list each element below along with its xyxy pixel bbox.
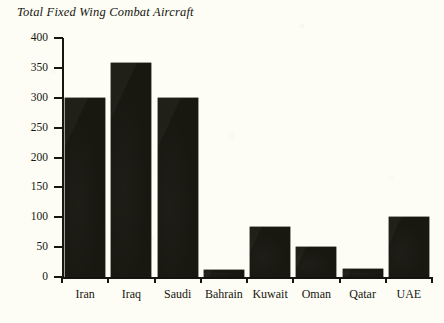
- y-tick-label-150: 150: [4, 181, 48, 193]
- y-tick-150: [54, 186, 63, 188]
- y-tick-200: [54, 157, 63, 159]
- y-tick-50: [54, 246, 63, 248]
- bar-uae: [389, 217, 429, 277]
- x-axis-label-iran: Iran: [62, 288, 108, 301]
- y-tick-label-50: 50: [4, 241, 48, 253]
- bar-saudi: [158, 98, 198, 277]
- y-tick-100: [54, 216, 63, 218]
- bar-kuwait: [250, 227, 290, 277]
- x-axis-label-kuwait: Kuwait: [247, 288, 293, 301]
- x-tick-5: [292, 277, 294, 283]
- x-tick-4: [246, 277, 248, 283]
- y-tick-label-0: 0: [4, 271, 48, 283]
- x-tick-2: [154, 277, 156, 283]
- x-axis-label-iraq: Iraq: [108, 288, 154, 301]
- bar-bahrain: [204, 270, 244, 277]
- x-axis-label-bahrain: Bahrain: [201, 288, 247, 301]
- y-tick-label-350: 350: [4, 62, 48, 74]
- y-tick-400: [54, 37, 63, 39]
- plot-area: 050100150200250300350400 IranIraqSaudiBa…: [0, 0, 444, 323]
- x-tick-7: [385, 277, 387, 283]
- x-tick-8: [431, 277, 433, 283]
- y-tick-label-300: 300: [4, 92, 48, 104]
- x-axis-label-qatar: Qatar: [340, 288, 386, 301]
- y-tick-300: [54, 97, 63, 99]
- x-tick-0: [61, 277, 63, 283]
- bar-qatar: [343, 269, 383, 277]
- y-tick-label-250: 250: [4, 122, 48, 134]
- y-tick-label-200: 200: [4, 152, 48, 164]
- x-axis-label-saudi: Saudi: [155, 288, 201, 301]
- x-axis-label-oman: Oman: [293, 288, 339, 301]
- y-tick-250: [54, 127, 63, 129]
- x-tick-3: [200, 277, 202, 283]
- bar-iraq: [111, 63, 151, 277]
- y-tick-label-400: 400: [4, 32, 48, 44]
- bar-iran: [65, 98, 105, 277]
- x-axis-label-uae: UAE: [386, 288, 432, 301]
- bar-oman: [296, 247, 336, 277]
- y-tick-label-100: 100: [4, 211, 48, 223]
- x-tick-6: [339, 277, 341, 283]
- chart-figure: Total Fixed Wing Combat Aircraft 0501001…: [0, 0, 444, 323]
- x-tick-1: [107, 277, 109, 283]
- y-tick-350: [54, 67, 63, 69]
